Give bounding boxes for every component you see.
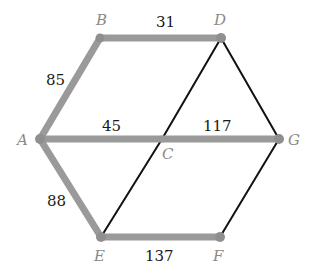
edge-C-E	[101, 139, 162, 237]
edge-A-E	[40, 139, 101, 237]
weight-label-A-E: 88	[47, 192, 66, 210]
node-label-A: A	[15, 131, 28, 149]
node-label-E: E	[93, 247, 105, 265]
node-F	[215, 232, 225, 242]
node-label-D: D	[213, 11, 226, 29]
highlighted-edges	[40, 38, 279, 237]
weight-label-A-C: 45	[102, 117, 121, 135]
node-E	[96, 232, 106, 242]
node-B	[96, 34, 105, 43]
node-label-C: C	[162, 145, 174, 163]
node-label-B: B	[95, 11, 107, 29]
weight-label-A-B: 85	[46, 71, 65, 89]
node-A	[35, 134, 45, 144]
weight-label-C-G: 117	[203, 117, 232, 135]
edge-G-F	[220, 139, 279, 237]
node-label-F: F	[212, 247, 224, 265]
graph-diagram: A B D C G E F 85 31 45 117 88 137	[0, 0, 315, 274]
node-G	[274, 134, 284, 144]
weight-label-E-F: 137	[145, 247, 174, 265]
node-D	[216, 33, 226, 43]
node-label-G: G	[288, 131, 300, 149]
weight-label-B-D: 31	[156, 13, 175, 31]
